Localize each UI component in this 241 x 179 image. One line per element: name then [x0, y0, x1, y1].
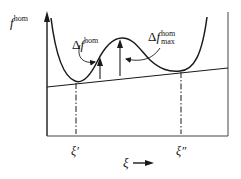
- delta-f-max-arrow-icon: [117, 39, 123, 48]
- y-axis-arrow-icon: [44, 11, 50, 22]
- delta-f-label: Δfhom: [72, 38, 98, 51]
- delta-arrows: [97, 39, 123, 79]
- common-tangent-line: [47, 68, 228, 87]
- x-axis-arrow-icon: [145, 160, 154, 166]
- x-axis-label: ξ: [123, 156, 129, 169]
- delta-f-max-leader-arrow-icon: [126, 48, 160, 60]
- free-energy-diagram: fhom Δfhom Δfhommax ξ′ ξ″ ξ: [0, 0, 241, 179]
- y-axis-label: fhom: [10, 16, 28, 29]
- x-tick-xi-prime: ξ′: [71, 145, 79, 157]
- diagram-canvas: [0, 0, 241, 179]
- plot-frame: [44, 11, 228, 136]
- x-tick-xi-double-prime: ξ″: [176, 145, 186, 157]
- delta-f-max-label: Δfhommax: [148, 30, 175, 45]
